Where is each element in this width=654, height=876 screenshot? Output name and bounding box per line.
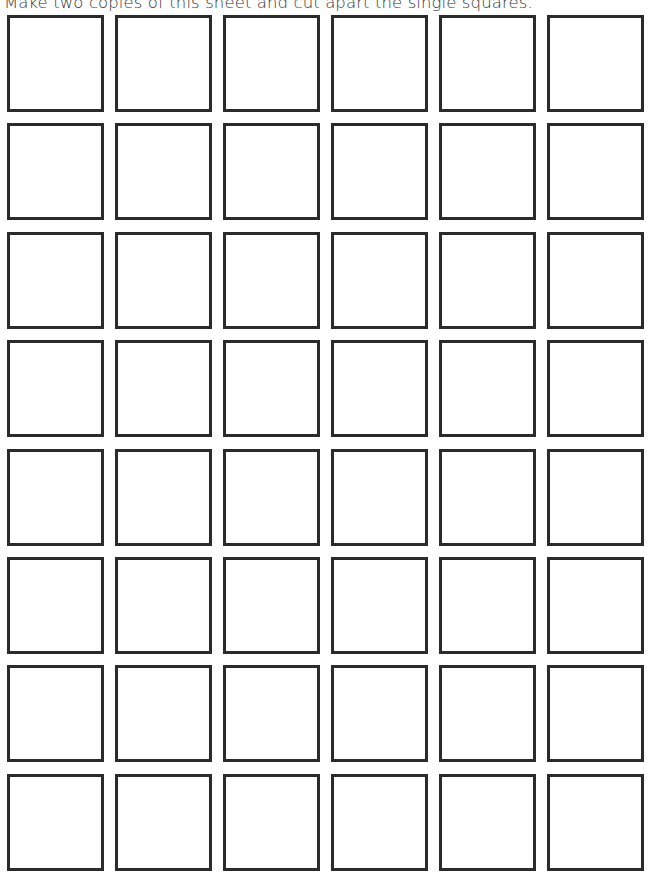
cutout-square	[7, 15, 104, 112]
cutout-square	[7, 449, 104, 546]
cutout-square	[223, 665, 320, 762]
cutout-square	[331, 557, 428, 654]
cutout-square	[439, 774, 536, 871]
cutout-square	[223, 449, 320, 546]
cutout-square	[547, 557, 644, 654]
cutout-square	[115, 774, 212, 871]
cutout-square	[439, 665, 536, 762]
cutout-square	[115, 340, 212, 437]
cutout-square	[439, 15, 536, 112]
instruction-text: Make two copies of this sheet and cut ap…	[4, 0, 654, 12]
cutout-square	[547, 774, 644, 871]
cutout-square	[7, 123, 104, 220]
cutout-square	[223, 123, 320, 220]
cutout-square	[439, 340, 536, 437]
cutout-square	[7, 232, 104, 329]
cutout-square	[331, 665, 428, 762]
cutout-square	[331, 232, 428, 329]
cutout-square	[223, 340, 320, 437]
cutout-square	[439, 557, 536, 654]
cutout-square	[547, 232, 644, 329]
cutout-square	[115, 15, 212, 112]
cutout-square	[439, 232, 536, 329]
cutout-squares-grid	[7, 15, 644, 871]
cutout-square	[439, 449, 536, 546]
cutout-square	[331, 774, 428, 871]
cutout-square	[7, 557, 104, 654]
cutout-square	[7, 665, 104, 762]
cutout-square	[223, 15, 320, 112]
cutout-square	[115, 123, 212, 220]
cutout-square	[115, 449, 212, 546]
cutout-square	[331, 123, 428, 220]
cutout-square	[439, 123, 536, 220]
cutout-square	[547, 340, 644, 437]
cutout-square	[223, 774, 320, 871]
cutout-square	[547, 665, 644, 762]
cutout-square	[547, 15, 644, 112]
cutout-square	[223, 557, 320, 654]
cutout-square	[115, 665, 212, 762]
cutout-square	[331, 449, 428, 546]
cutout-square	[331, 15, 428, 112]
cutout-square	[331, 340, 428, 437]
cutout-square	[115, 232, 212, 329]
cutout-square	[547, 449, 644, 546]
cutout-square	[7, 340, 104, 437]
cutout-square	[547, 123, 644, 220]
cutout-square	[223, 232, 320, 329]
cutout-square	[115, 557, 212, 654]
cutout-square	[7, 774, 104, 871]
